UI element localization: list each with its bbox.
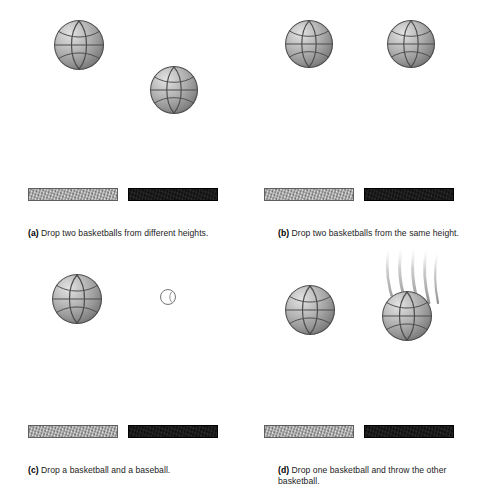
- panel-a-scene: [0, 0, 239, 246]
- surface-bar-light: [28, 188, 118, 201]
- basketball-dropped: [285, 285, 335, 335]
- surface-bar-dark: [364, 188, 454, 201]
- caption-d-label: (d): [278, 465, 292, 475]
- caption-b-text: Drop two basketballs from the same heigh…: [292, 228, 459, 238]
- caption-c: (c) Drop a basketball and a baseball.: [28, 453, 260, 476]
- surface-bar-light: [264, 425, 354, 438]
- basketball-left: [285, 20, 333, 68]
- panel-b-scene: [240, 0, 479, 246]
- surface-bar-light: [28, 425, 118, 438]
- caption-a-text: Drop two basketballs from different heig…: [41, 228, 208, 238]
- caption-d: (d) Drop one basketball and throw the ot…: [264, 453, 479, 488]
- basketball-seams-icon: [382, 291, 432, 341]
- basketball-low: [150, 66, 198, 114]
- surface-bar-dark: [128, 425, 218, 438]
- basketball-thrown: [382, 291, 432, 341]
- panel-b: (b) Drop two basketballs from the same h…: [240, 0, 479, 246]
- panel-a: (a) Drop two basketballs from different …: [0, 0, 239, 246]
- basketball: [52, 274, 102, 324]
- basketball-high: [54, 20, 104, 70]
- basketball-seams-icon: [387, 20, 435, 68]
- basketball-right: [387, 20, 435, 68]
- basketball-seams-icon: [285, 20, 333, 68]
- figure-grid: (a) Drop two basketballs from different …: [0, 0, 479, 493]
- basketball-seams-icon: [54, 20, 104, 70]
- caption-d-text: Drop one basketball and throw the other …: [278, 465, 446, 487]
- caption-a: (a) Drop two basketballs from different …: [28, 216, 260, 239]
- caption-a-label: (a): [28, 228, 41, 238]
- caption-b: (b) Drop two basketballs from the same h…: [264, 216, 479, 239]
- baseball-seam-icon: [161, 290, 175, 304]
- basketball-seams-icon: [285, 285, 335, 335]
- panel-d: (d) Drop one basketball and throw the ot…: [240, 247, 479, 493]
- caption-c-text: Drop a basketball and a baseball.: [41, 465, 170, 475]
- basketball-seams-icon: [150, 66, 198, 114]
- surface-bar-dark: [364, 425, 454, 438]
- surface-bar-light: [264, 188, 354, 201]
- caption-c-label: (c): [28, 465, 41, 475]
- basketball-seams-icon: [52, 274, 102, 324]
- surface-bar-dark: [128, 188, 218, 201]
- panel-c: (c) Drop a basketball and a baseball.: [0, 247, 239, 493]
- caption-b-label: (b): [278, 228, 292, 238]
- baseball: [160, 289, 176, 305]
